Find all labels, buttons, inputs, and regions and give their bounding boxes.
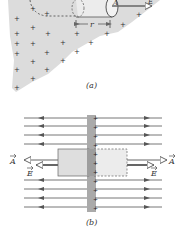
svg-text:+: + <box>14 84 20 92</box>
svg-text:+: + <box>93 141 98 148</box>
svg-text:+: + <box>30 58 36 66</box>
svg-text:+: + <box>14 66 20 74</box>
svg-text:+: + <box>60 39 66 47</box>
svg-text:+: + <box>14 40 20 48</box>
svg-text:+: + <box>30 40 36 48</box>
svg-text:+: + <box>93 132 98 139</box>
sheet-charges: ++++ ++++ +++ <box>93 114 98 211</box>
svg-text:+: + <box>14 15 20 23</box>
svg-text:+: + <box>74 30 80 38</box>
svg-text:+: + <box>74 48 80 56</box>
svg-text:+: + <box>93 159 98 166</box>
svg-text:+: + <box>93 123 98 130</box>
svg-text:+: + <box>14 50 20 58</box>
svg-text:+: + <box>44 49 50 57</box>
svg-text:+: + <box>93 150 98 157</box>
svg-text:+: + <box>93 177 98 184</box>
svg-text:+: + <box>45 30 51 38</box>
svg-text:+: + <box>93 168 98 175</box>
caption-a: (a) <box>86 81 97 90</box>
svg-text:+: + <box>93 186 98 193</box>
svg-text:+: + <box>14 30 20 38</box>
svg-text:+: + <box>104 30 110 38</box>
panel-a: A E r ++ ++ ++++++ ++++ +++ ++ ++ + + (a… <box>8 0 160 92</box>
svg-text:+: + <box>136 11 142 19</box>
svg-text:+: + <box>88 39 94 47</box>
svg-text:+: + <box>30 75 36 83</box>
svg-text:+: + <box>93 114 98 121</box>
right-field-label: E <box>150 169 157 178</box>
svg-text:+: + <box>60 57 66 65</box>
gaussian-cylinder <box>72 0 118 17</box>
svg-text:+: + <box>93 195 98 202</box>
cylinder-left-half <box>58 149 89 176</box>
svg-text:+: + <box>93 204 98 211</box>
svg-text:+: + <box>44 66 50 74</box>
svg-text:+: + <box>120 21 126 29</box>
svg-text:+: + <box>30 5 36 13</box>
area-label: A <box>112 0 118 7</box>
left-area-label: A <box>9 157 16 166</box>
svg-text:+: + <box>30 24 36 32</box>
right-area-label: A <box>168 157 175 166</box>
cylinder-right-half <box>94 149 127 176</box>
gauss-law-figure: A E r ++ ++ ++++++ ++++ +++ ++ ++ + + (a… <box>0 0 182 234</box>
caption-b: (b) <box>86 218 97 227</box>
left-field-label: E <box>26 169 33 178</box>
svg-text:+: + <box>44 10 50 18</box>
panel-b: ++++ ++++ +++ A E A E (b) <box>9 114 175 227</box>
field-label: E <box>147 0 153 6</box>
